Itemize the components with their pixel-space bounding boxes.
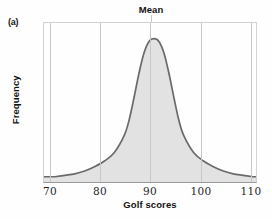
plot-area xyxy=(43,22,257,183)
y-axis-title: Frequency xyxy=(11,60,21,140)
xtick-label-90: 90 xyxy=(130,186,170,197)
x-axis-title: Golf scores xyxy=(43,200,257,210)
panel-label: (a) xyxy=(8,18,18,27)
xtick-label-100: 100 xyxy=(181,186,221,197)
figure-panel: (a) Mean 70 80 90 100 110 Golf scores Fr… xyxy=(0,0,272,219)
xtick-label-80: 80 xyxy=(80,186,120,197)
plot-border xyxy=(43,22,257,183)
chart-title: Mean xyxy=(15,5,272,15)
xtick-label-70: 70 xyxy=(30,186,70,197)
xtick-label-110: 110 xyxy=(231,186,271,197)
